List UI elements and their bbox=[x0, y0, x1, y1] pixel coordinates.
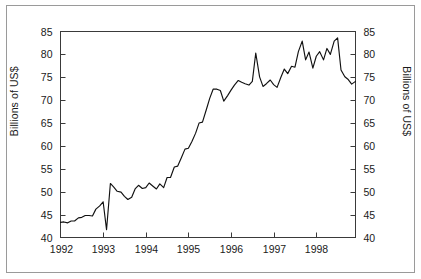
y-tick-label-left: 80 bbox=[41, 48, 53, 60]
y-axis-ticks-left bbox=[61, 55, 66, 216]
x-tick-label: 1994 bbox=[135, 243, 159, 255]
y-tick-label-right: 50 bbox=[364, 186, 376, 198]
y-tick-label-left: 85 bbox=[41, 26, 53, 38]
x-tick-label: 1993 bbox=[92, 243, 116, 255]
y-axis-labels-right: 40455055606570758085 bbox=[364, 26, 376, 244]
x-tick-label: 1995 bbox=[177, 243, 201, 255]
y-axis-ticks-right bbox=[351, 55, 356, 216]
y-tick-label-left: 55 bbox=[41, 163, 53, 175]
x-tick-label: 1998 bbox=[305, 243, 329, 255]
y-tick-label-right: 45 bbox=[364, 209, 376, 221]
y-tick-label-right: 85 bbox=[364, 26, 376, 38]
y-tick-label-right: 60 bbox=[364, 140, 376, 152]
y-tick-label-right: 70 bbox=[364, 94, 376, 106]
chart-figure: Billions of US$ Billions of US$ 40455055… bbox=[0, 0, 421, 279]
y-tick-label-right: 80 bbox=[364, 48, 376, 60]
x-axis-labels: 1992199319941995199619971998 bbox=[50, 243, 329, 255]
y-tick-label-left: 75 bbox=[41, 71, 53, 83]
y-tick-label-right: 65 bbox=[364, 117, 376, 129]
y-tick-label-left: 60 bbox=[41, 140, 53, 152]
x-tick-label: 1992 bbox=[50, 243, 74, 255]
y-tick-label-right: 55 bbox=[364, 163, 376, 175]
y-tick-label-left: 70 bbox=[41, 94, 53, 106]
x-tick-label: 1996 bbox=[220, 243, 244, 255]
data-series-line bbox=[61, 38, 356, 230]
y-tick-label-left: 65 bbox=[41, 117, 53, 129]
x-tick-label: 1997 bbox=[263, 243, 287, 255]
y-tick-label-right: 75 bbox=[364, 71, 376, 83]
y-tick-label-left: 45 bbox=[41, 209, 53, 221]
x-axis-ticks bbox=[104, 233, 317, 238]
line-chart-svg: 40455055606570758085 4045505560657075808… bbox=[0, 0, 421, 279]
y-tick-label-left: 50 bbox=[41, 186, 53, 198]
plot-area: 40455055606570758085 4045505560657075808… bbox=[0, 0, 421, 279]
y-tick-label-right: 40 bbox=[364, 232, 376, 244]
y-axis-labels-left: 40455055606570758085 bbox=[41, 26, 53, 244]
